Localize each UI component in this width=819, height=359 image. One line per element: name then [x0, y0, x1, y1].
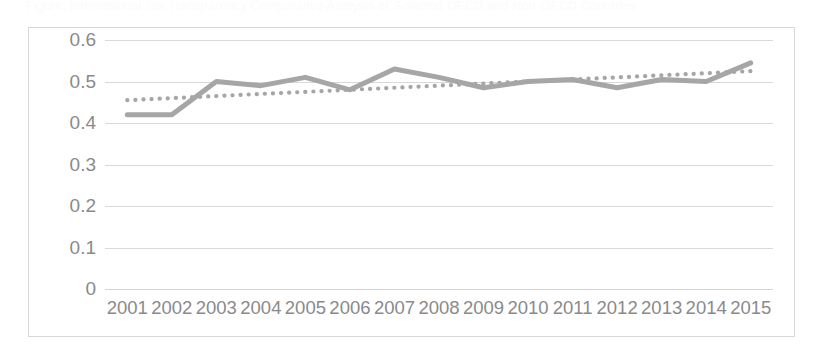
x-axis-tick-label: 2013 — [639, 294, 684, 324]
y-axis-tick-label: 0.6 — [70, 29, 96, 51]
x-axis-tick-label: 2002 — [150, 294, 195, 324]
series-lines — [105, 40, 773, 289]
page-bleed-through-text: Figure: International Tax Transparency C… — [26, 0, 786, 15]
x-axis-tick-label: 2004 — [239, 294, 284, 324]
chart-frame: 0.60.50.40.30.20.10 20012002200320042005… — [28, 27, 795, 337]
y-axis-tick-label: 0.1 — [70, 237, 96, 259]
x-axis-tick-label: 2011 — [550, 294, 595, 324]
x-axis-tick-labels: 2001200220032004200520062007200820092010… — [105, 294, 773, 324]
x-axis-tick-label: 2014 — [684, 294, 729, 324]
plot-area: 0.60.50.40.30.20.10 — [105, 40, 773, 289]
y-axis-tick-label: 0.5 — [70, 71, 96, 93]
y-axis-tick-label: 0.3 — [70, 154, 96, 176]
x-axis-tick-label: 2001 — [105, 294, 150, 324]
x-axis-tick-label: 2006 — [328, 294, 373, 324]
x-axis-tick-label: 2008 — [417, 294, 462, 324]
x-axis-tick-label: 2007 — [372, 294, 417, 324]
series-line — [127, 63, 750, 115]
x-axis-tick-label: 2010 — [506, 294, 551, 324]
y-axis-tick-label: 0.4 — [70, 112, 96, 134]
x-axis-tick-label: 2012 — [595, 294, 640, 324]
x-axis-tick-label: 2005 — [283, 294, 328, 324]
x-axis-tick-label: 2009 — [461, 294, 506, 324]
x-axis-tick-label: 2003 — [194, 294, 239, 324]
y-axis-tick-label: 0 — [85, 278, 96, 300]
x-axis-tick-label: 2015 — [728, 294, 773, 324]
y-axis-tick-label: 0.2 — [70, 195, 96, 217]
gridline — [105, 289, 773, 290]
